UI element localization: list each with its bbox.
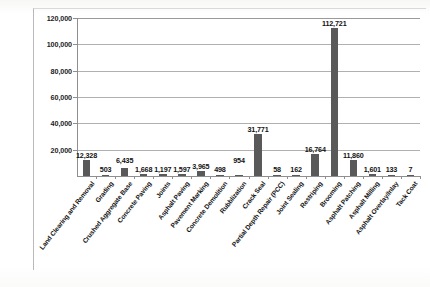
y-axis-tick-label: 40,000 xyxy=(30,119,72,128)
bar-series xyxy=(77,18,420,176)
x-axis-tick xyxy=(363,176,364,179)
bar xyxy=(83,160,91,176)
x-axis-tick xyxy=(153,176,154,179)
x-axis-tick xyxy=(344,176,345,179)
y-axis-tick xyxy=(73,18,77,19)
bar xyxy=(350,160,358,176)
bar-value-label: 112,721 xyxy=(322,19,347,28)
bar-value-label: 16,764 xyxy=(305,145,326,154)
x-axis-tick xyxy=(96,176,97,179)
bar-value-label: 162 xyxy=(290,165,302,174)
x-axis-tick xyxy=(115,176,116,179)
bar-value-label: 12,328 xyxy=(76,151,97,160)
bar-value-label: 1,601 xyxy=(364,165,381,174)
y-axis-tick-label: 100,000 xyxy=(30,40,72,49)
bar-value-label: 1,597 xyxy=(173,165,190,174)
y-axis-tick-label: 120,000 xyxy=(30,14,72,23)
bar xyxy=(197,171,205,176)
bar xyxy=(292,175,300,176)
x-axis-tick xyxy=(287,176,288,179)
bar-value-label: 58 xyxy=(273,165,281,174)
y-axis-tick xyxy=(73,150,77,151)
x-axis-tick xyxy=(268,176,269,179)
bar-value-label: 7 xyxy=(409,165,413,174)
bar xyxy=(311,154,319,176)
bar xyxy=(273,175,281,176)
x-axis-tick xyxy=(134,176,135,179)
bar-value-label: 954 xyxy=(233,156,245,165)
x-axis-tick xyxy=(172,176,173,179)
x-axis-tick xyxy=(420,176,421,179)
bar xyxy=(331,28,339,176)
bar-value-label: 31,771 xyxy=(247,125,268,134)
bar-value-label: 1,668 xyxy=(135,165,152,174)
x-axis-tick xyxy=(325,176,326,179)
bar xyxy=(407,175,415,176)
bar-value-label: 6,435 xyxy=(116,156,133,165)
y-axis-tick-label: 60,000 xyxy=(30,93,72,102)
y-axis-tick-label: 20,000 xyxy=(30,145,72,154)
bar-value-label: 11,860 xyxy=(343,151,364,160)
y-axis-tick-label: 80,000 xyxy=(30,66,72,75)
bar xyxy=(102,175,110,176)
bar xyxy=(159,174,167,176)
bar-value-label: 133 xyxy=(386,165,398,174)
bar xyxy=(216,175,224,176)
bar-value-label: 1,197 xyxy=(154,165,171,174)
bar xyxy=(178,174,186,176)
bar-value-label: 503 xyxy=(100,165,112,174)
x-axis-category-label: Joints xyxy=(154,180,171,199)
x-axis-tick xyxy=(249,176,250,179)
y-axis-tick xyxy=(73,123,77,124)
bar xyxy=(121,168,129,176)
bar xyxy=(369,174,377,176)
x-axis-tick xyxy=(401,176,402,179)
bar xyxy=(254,134,262,176)
bar xyxy=(235,175,243,176)
x-axis-tick xyxy=(306,176,307,179)
bar-value-label: 498 xyxy=(214,165,226,174)
x-axis-tick xyxy=(382,176,383,179)
bar xyxy=(388,175,396,176)
x-axis-tick xyxy=(210,176,211,179)
y-axis-tick xyxy=(73,44,77,45)
figure-page: 120,000100,00080,00060,00040,00020,000 1… xyxy=(0,0,430,287)
y-axis-tick xyxy=(73,71,77,72)
bar xyxy=(140,174,148,176)
y-axis-tick xyxy=(73,97,77,98)
bar-chart: 120,000100,00080,00060,00040,00020,000 1… xyxy=(0,0,430,287)
x-axis-tick xyxy=(229,176,230,179)
y-axis-tick-labels: 120,000100,00080,00060,00040,00020,000 xyxy=(26,0,72,287)
bar-value-label: 3,965 xyxy=(192,162,209,171)
x-axis-tick xyxy=(191,176,192,179)
